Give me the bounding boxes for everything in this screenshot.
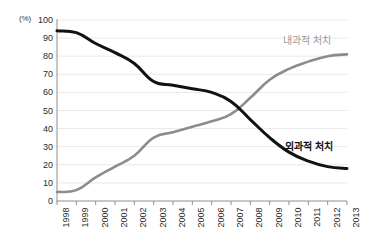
y-axis-tick-label: 10	[14, 178, 53, 188]
y-axis-tick-labels: 1009080706050403020100	[14, 0, 53, 248]
x-axis-tick-label: 2012	[332, 207, 342, 227]
y-axis-tick-label: 30	[14, 142, 53, 152]
y-axis-tick-label: 0	[14, 196, 53, 206]
x-axis-tick-labels: 1998199920002001200220032004200520062007…	[57, 203, 347, 248]
y-axis-tick-label: 100	[14, 15, 53, 25]
series-label-surgical: 외과적 처치	[285, 138, 333, 153]
x-axis-tick-label: 2004	[177, 207, 187, 227]
y-axis-tick-label: 70	[14, 69, 53, 79]
x-axis-tick-label: 1998	[61, 207, 71, 227]
y-axis-tick-label: 80	[14, 51, 53, 61]
x-axis-tick-label: 2011	[312, 207, 322, 226]
x-axis-tick-label: 2000	[100, 207, 110, 227]
y-axis-tick-label: 50	[14, 106, 53, 116]
y-axis-tick-label: 90	[14, 33, 53, 43]
line-chart: (%) 1009080706050403020100 1998199920002…	[0, 0, 371, 248]
y-axis-tick-label: 40	[14, 124, 53, 134]
y-axis-tick-label: 60	[14, 87, 53, 97]
series-line-medical	[57, 54, 347, 192]
x-axis-tick-label: 2013	[351, 207, 361, 227]
plot-svg	[57, 20, 347, 201]
x-axis-tick-label: 2006	[216, 207, 226, 227]
x-axis-tick-label: 2003	[158, 207, 168, 227]
x-axis-tick-label: 2005	[196, 207, 206, 227]
x-axis-tick-label: 2008	[254, 207, 264, 227]
plot-area	[57, 20, 347, 201]
x-axis-tick-label: 2009	[274, 207, 284, 227]
series-label-medical: 내과적 처치	[283, 32, 331, 47]
y-axis-tick-label: 20	[14, 160, 53, 170]
x-axis-tick-label: 2007	[235, 207, 245, 227]
x-axis-tick-label: 1999	[80, 207, 90, 227]
x-axis-tick-label: 2001	[119, 207, 129, 227]
x-axis-tick-label: 2010	[293, 207, 303, 227]
x-axis-tick-label: 2002	[138, 207, 148, 227]
